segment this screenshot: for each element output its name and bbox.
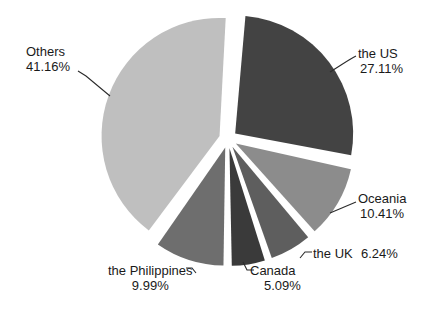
- pie-label-the-philippines-value: 9.99%: [108, 278, 193, 293]
- leader-line-others: [78, 71, 110, 96]
- pie-label-the-uk-name: the UK: [313, 246, 353, 261]
- pie-chart: the US 27.11% Oceania 10.41% the UK 6.24…: [0, 0, 437, 322]
- leader-line-the-us: [330, 56, 356, 72]
- pie-label-the-us-name: the US: [358, 46, 398, 61]
- pie-label-others-value: 41.16%: [26, 59, 70, 74]
- pie-label-oceania-value: 10.41%: [360, 206, 406, 221]
- leader-line-the-uk: [300, 252, 312, 258]
- pie-slice-the-us[interactable]: [235, 16, 353, 155]
- pie-label-canada: Canada 5.09%: [250, 263, 301, 293]
- pie-label-canada-value: 5.09%: [264, 278, 301, 293]
- pie-label-oceania: Oceania 10.41%: [358, 191, 406, 221]
- pie-label-others-name: Others: [26, 44, 65, 59]
- pie-label-the-philippines-name: the Philippines: [108, 263, 193, 278]
- pie-label-others: Others 41.16%: [26, 44, 70, 74]
- pie-label-the-uk-value: 6.24%: [361, 246, 398, 261]
- pie-label-the-us: the US 27.11%: [358, 46, 403, 76]
- pie-label-canada-name: Canada: [250, 263, 296, 278]
- pie-label-oceania-name: Oceania: [358, 191, 406, 206]
- pie-label-the-uk: the UK 6.24%: [313, 246, 353, 261]
- pie-label-the-us-value: 27.11%: [360, 61, 403, 76]
- pie-label-the-philippines: the Philippines 9.99%: [108, 263, 193, 293]
